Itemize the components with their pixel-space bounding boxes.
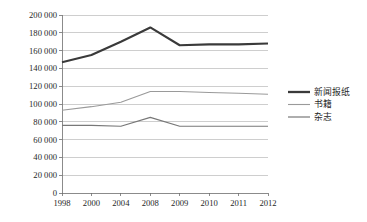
y-tick-label: 40 000: [33, 152, 57, 162]
y-tick-label: 0: [53, 188, 57, 198]
chart-canvas: 020 00040 00060 00080 000100 000120 0001…: [0, 0, 367, 222]
series-line-2: [62, 92, 268, 111]
line-chart: 020 00040 00060 00080 000100 000120 0001…: [0, 0, 367, 222]
legend-label-3: 杂志: [314, 111, 332, 122]
legend-label-2: 书籍: [314, 98, 332, 109]
y-tick-label: 160 000: [29, 46, 57, 56]
x-tick-label: 1998: [53, 198, 70, 208]
y-tick-label: 60 000: [33, 135, 57, 145]
y-tick-label: 120 000: [29, 81, 57, 91]
x-axis: [62, 193, 268, 196]
series-group: [62, 27, 268, 126]
x-tick-label: 2000: [83, 198, 100, 208]
x-tick-label: 2011: [230, 198, 247, 208]
y-tick-labels-group: 020 00040 00060 00080 000100 000120 0001…: [29, 10, 57, 198]
x-tick-labels-group: 19982000200420082009201020112012: [53, 198, 276, 208]
y-tick-label: 180 000: [29, 28, 57, 38]
y-tick-label: 100 000: [29, 99, 57, 109]
x-tick-label: 2012: [259, 198, 276, 208]
x-tick-label: 2010: [201, 198, 218, 208]
x-tick-label: 2008: [142, 198, 159, 208]
y-tick-label: 140 000: [29, 63, 57, 73]
x-tick-label: 2009: [171, 198, 188, 208]
y-axis: [59, 15, 62, 193]
gridlines-group: [62, 15, 268, 175]
legend: 新闻报纸书籍杂志: [288, 86, 350, 122]
y-tick-label: 200 000: [29, 10, 57, 20]
x-tick-label: 2004: [112, 198, 130, 208]
legend-label-1: 新闻报纸: [314, 86, 350, 97]
y-tick-label: 80 000: [33, 117, 57, 127]
y-tick-label: 20 000: [33, 170, 57, 180]
